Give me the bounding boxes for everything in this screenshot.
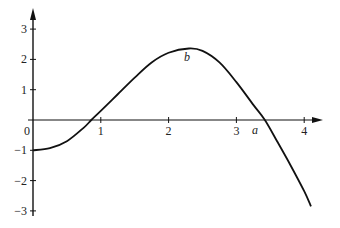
y-tick-label: 1 (21, 83, 27, 97)
x-tick-label: 0 (24, 124, 30, 138)
function-graph: 321−1−2−3 01234 ab (0, 0, 340, 228)
y-tick-label: −2 (14, 174, 27, 188)
function-curve (33, 48, 311, 206)
x-tick-label: 1 (98, 124, 104, 138)
point-label-a: a (252, 123, 258, 137)
y-tick-label: 3 (21, 22, 27, 36)
x-tick-label: 2 (166, 124, 172, 138)
point-label-b: b (184, 50, 190, 64)
x-tick-label: 4 (301, 124, 307, 138)
y-axis-arrow-icon (30, 8, 36, 20)
y-tick-label: −3 (14, 204, 27, 218)
x-axis-arrow-icon (312, 117, 323, 123)
x-tick-label: 3 (233, 124, 239, 138)
x-axis (28, 117, 323, 123)
y-tick-label: −1 (14, 143, 27, 157)
y-axis (30, 8, 36, 216)
y-tick-label: 2 (21, 52, 27, 66)
